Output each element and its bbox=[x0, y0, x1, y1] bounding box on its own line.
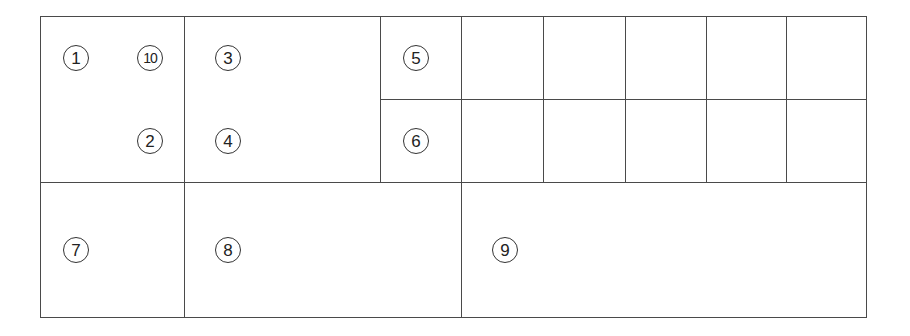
circled-number-label: 7 bbox=[63, 237, 89, 263]
circled-number-label: 3 bbox=[215, 45, 241, 71]
vertical-divider bbox=[380, 16, 381, 182]
horizontal-divider bbox=[380, 99, 867, 100]
outer-frame bbox=[40, 16, 867, 318]
vertical-divider bbox=[543, 16, 544, 182]
circled-number-label: 1 bbox=[63, 45, 89, 71]
vertical-divider bbox=[625, 16, 626, 182]
circled-number-label: 9 bbox=[492, 237, 518, 263]
circled-number-label: 4 bbox=[215, 128, 241, 154]
circled-number-label: 8 bbox=[215, 237, 241, 263]
vertical-divider bbox=[461, 16, 462, 318]
circled-number-label: 6 bbox=[403, 128, 429, 154]
circled-number-label: 10 bbox=[137, 45, 163, 71]
circled-number-label: 5 bbox=[403, 45, 429, 71]
vertical-divider bbox=[706, 16, 707, 182]
circled-number-label: 2 bbox=[137, 128, 163, 154]
horizontal-divider bbox=[40, 182, 867, 183]
vertical-divider bbox=[184, 16, 185, 318]
vertical-divider bbox=[786, 16, 787, 182]
